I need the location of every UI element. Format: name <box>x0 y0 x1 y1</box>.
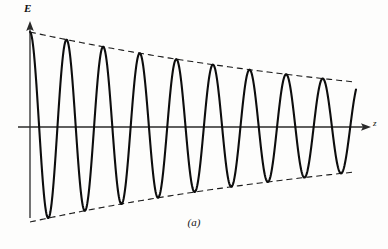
damped-oscillation-plot <box>0 0 388 249</box>
figure-caption: (a) <box>0 216 388 228</box>
figure-container: E z (a) <box>0 0 388 249</box>
y-axis-label: E <box>24 2 31 14</box>
damped-sine-curve <box>30 32 356 218</box>
upper-envelope-curve <box>30 32 356 82</box>
x-axis-label: z <box>373 118 377 128</box>
